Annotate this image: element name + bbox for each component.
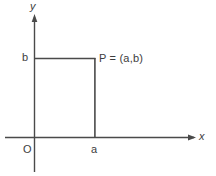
y-tick-label-b: b	[22, 52, 28, 63]
coordinate-diagram: y x O a b P = (a,b)	[0, 0, 216, 176]
diagram-canvas	[0, 0, 216, 176]
x-axis-label: x	[199, 131, 205, 142]
x-axis-arrowhead	[188, 135, 196, 141]
x-tick-label-a: a	[91, 144, 97, 155]
y-axis-arrowhead	[32, 14, 38, 22]
origin-label: O	[23, 144, 32, 155]
point-label-P: P = (a,b)	[99, 53, 143, 64]
y-axis-label: y	[30, 1, 36, 12]
